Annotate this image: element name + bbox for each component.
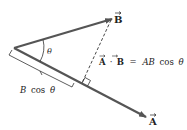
equation-theta: θ xyxy=(178,57,183,67)
equation-b: B xyxy=(117,57,124,67)
vector-a-label: A xyxy=(148,116,157,127)
projection-bracket xyxy=(9,50,74,87)
dot-product-diagram: B A θ B cos θ A · B = AB cos θ xyxy=(0,0,187,130)
equation-dot: · xyxy=(110,57,113,67)
projection-label-func: cos xyxy=(31,85,45,95)
dot-product-equation: A · B = AB cos θ xyxy=(98,57,184,67)
projection-label-prefix: B xyxy=(19,85,26,95)
vector-b-label: B xyxy=(114,14,122,25)
projection-label-angle: θ xyxy=(50,85,55,95)
angle-arc xyxy=(40,40,44,62)
projection-dashed-line xyxy=(82,20,111,83)
equation-equals: = xyxy=(130,57,137,67)
angle-label: θ xyxy=(47,47,52,56)
equation-cos: cos xyxy=(160,57,174,67)
equation-a: A xyxy=(98,57,106,67)
equation-ab: AB xyxy=(141,57,154,67)
projection-label: B cos θ xyxy=(19,85,55,95)
vector-b-line xyxy=(14,19,112,48)
